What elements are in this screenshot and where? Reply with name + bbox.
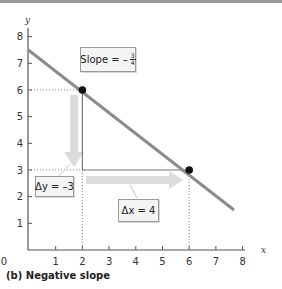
svg-text:1: 1: [17, 218, 23, 229]
svg-text:7: 7: [17, 58, 23, 69]
slope-label: Slope = – 3 4: [80, 47, 136, 72]
point-2-6: [79, 86, 87, 94]
svg-text:5: 5: [17, 111, 23, 122]
slope-fraction: 3 4: [130, 53, 136, 66]
svg-text:2: 2: [17, 191, 23, 202]
y-tick-labels: 1 2 3 4 5 6 7 8: [17, 31, 23, 229]
figure-caption: (b) Negative slope: [6, 270, 110, 281]
svg-text:3: 3: [17, 165, 23, 176]
svg-text:8: 8: [239, 256, 245, 267]
slope-triangle: [82, 90, 189, 170]
point-6-3: [185, 166, 193, 174]
svg-text:2: 2: [79, 256, 85, 267]
x-tick-labels: 0 1 2 3 4 5 6 7 8: [1, 256, 246, 267]
svg-text:0: 0: [1, 256, 7, 267]
delta-x-arrow: [86, 171, 183, 189]
svg-text:3: 3: [106, 256, 112, 267]
svg-text:6: 6: [17, 85, 23, 96]
y-axis-label: y: [24, 15, 31, 25]
svg-text:7: 7: [213, 256, 219, 267]
svg-text:4: 4: [133, 256, 139, 267]
svg-text:6: 6: [186, 256, 192, 267]
svg-text:4: 4: [17, 138, 23, 149]
delta-y-arrow: [64, 95, 84, 167]
slope-text: Slope = –: [80, 54, 127, 65]
chart-canvas: 1 2 3 4 5 6 7 8 0 1 2 3 4 5 6 7 8 y x: [0, 0, 282, 289]
delta-y-label: Δy = –3: [35, 176, 74, 197]
svg-text:5: 5: [159, 256, 165, 267]
x-axis-label: x: [261, 245, 266, 255]
svg-text:1: 1: [53, 256, 59, 267]
svg-text:8: 8: [17, 31, 23, 42]
delta-x-label: Δx = 4: [118, 199, 159, 222]
